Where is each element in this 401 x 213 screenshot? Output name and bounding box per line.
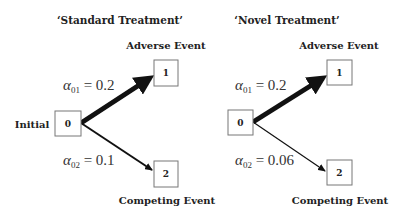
svg-text:2: 2 [336,168,342,178]
competing-event-label: Competing Event [119,195,216,206]
state-node-2: 2 [327,160,352,185]
competing-event-label: Competing Event [292,195,389,206]
rate-label-01: α01 = 0.2 [63,77,115,95]
rate-label-01: α01 = 0.2 [235,77,287,95]
state-node-0: 0 [55,111,81,136]
state-node-1: 1 [154,60,178,86]
state-node-0: 0 [228,110,253,135]
competing-risks-diagram: ‘Standard Treatment’ Adverse Event Compe… [0,0,401,213]
svg-text:2: 2 [163,169,169,179]
rate-label-02: α02 = 0.06 [235,152,295,170]
initial-label: Initial [15,119,50,130]
panel-title: ‘Standard Treatment’ [57,14,183,26]
state-node-1: 1 [327,60,352,85]
rate-label-02: α02 = 0.1 [63,152,115,170]
svg-text:1: 1 [336,68,342,78]
svg-text:0: 0 [65,119,71,129]
panel-standard-treatment: ‘Standard Treatment’ Adverse Event Compe… [15,14,216,206]
panel-title: ‘Novel Treatment’ [234,14,340,26]
adverse-event-label: Adverse Event [125,40,206,51]
adverse-event-label: Adverse Event [298,40,379,51]
panel-novel-treatment: ‘Novel Treatment’ Adverse Event Competin… [228,14,389,206]
svg-text:0: 0 [237,118,243,128]
svg-text:1: 1 [163,68,169,78]
state-node-2: 2 [154,161,178,187]
